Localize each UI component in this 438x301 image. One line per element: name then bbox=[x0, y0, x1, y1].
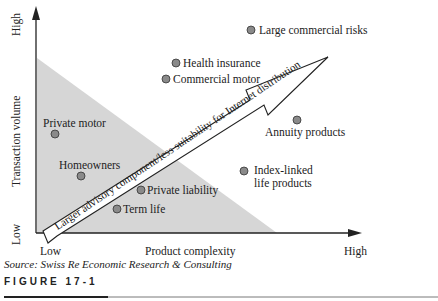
y-axis-high-label: High bbox=[10, 13, 22, 36]
point-label-homeowners: Homeowners bbox=[59, 159, 120, 171]
point-label-large-commercial-risks: Large commercial risks bbox=[259, 24, 367, 36]
point-label-annuity-products: Annuity products bbox=[265, 126, 345, 138]
x-axis-title: Product complexity bbox=[145, 245, 235, 257]
point-label-private-motor: Private motor bbox=[43, 117, 106, 129]
y-axis-arrowhead bbox=[32, 6, 40, 20]
x-axis-arrowhead bbox=[348, 229, 362, 237]
point-label-private-liability: Private liability bbox=[147, 184, 218, 196]
y-axis-title: Transaction volume bbox=[10, 96, 22, 187]
figure-source: Source: Swiss Re Economic Research & Con… bbox=[4, 258, 232, 270]
figure-label: FIGURE 17-1 bbox=[4, 276, 98, 287]
point-label-health-insurance: Health insurance bbox=[183, 57, 261, 69]
x-axis-high-label: High bbox=[344, 245, 367, 257]
x-axis-low-label: Low bbox=[40, 245, 61, 257]
y-axis-low-label: Low bbox=[10, 224, 22, 245]
point-label-term-life: Term life bbox=[123, 203, 165, 215]
point-label-commercial-motor: Commercial motor bbox=[173, 73, 260, 85]
point-label-index-linked: Index-linked life products bbox=[254, 164, 324, 190]
